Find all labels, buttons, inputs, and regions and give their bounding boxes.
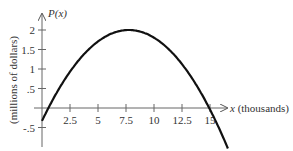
- y-axis-label: (millions of dollars): [7, 36, 20, 124]
- x-tick-label: 7.5: [119, 114, 133, 126]
- x-tick-label: 10: [149, 114, 161, 126]
- y-axis-title: P(x): [47, 7, 67, 20]
- y-tick-label: -.5: [23, 122, 35, 134]
- x-ticks: 2.557.51012.515: [63, 104, 216, 126]
- x-axis-label: x (thousands): [229, 102, 289, 115]
- y-tick-label: 1: [30, 63, 36, 75]
- profit-chart: 2.557.51012.515 21.51.5-.5 P(x) x (thous…: [0, 0, 293, 151]
- profit-curve: [42, 30, 228, 149]
- y-tick-label: 2: [30, 24, 36, 36]
- x-tick-label: 5: [95, 114, 101, 126]
- y-tick-label: .5: [27, 83, 36, 95]
- x-tick-label: 2.5: [63, 114, 77, 126]
- x-tick-label: 12.5: [172, 114, 192, 126]
- y-tick-label: 1.5: [21, 44, 35, 56]
